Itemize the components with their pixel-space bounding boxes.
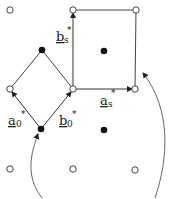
svg-text:0: 0 xyxy=(16,119,22,129)
svg-text:*: * xyxy=(21,109,26,119)
svg-text:s: s xyxy=(64,35,69,45)
label-bs-star: b s * xyxy=(56,25,72,45)
svg-text:a: a xyxy=(8,113,16,128)
label-a0-star: a 0 * xyxy=(8,109,26,129)
svg-text:*: * xyxy=(72,109,77,119)
label-as-star: a s * xyxy=(100,88,116,109)
svg-text:*: * xyxy=(67,25,72,35)
svg-text:a: a xyxy=(100,93,108,108)
svg-text:0: 0 xyxy=(67,119,73,129)
svg-text:s: s xyxy=(108,99,113,109)
pointer-curve-right xyxy=(143,73,165,198)
diamond-cell xyxy=(10,50,73,89)
lattice-diagram: b s * a s * a 0 * b 0 * xyxy=(0,0,173,199)
label-b0-star: b 0 * xyxy=(59,109,77,129)
pointer-curve-left xyxy=(31,134,42,198)
svg-text:*: * xyxy=(111,88,116,98)
